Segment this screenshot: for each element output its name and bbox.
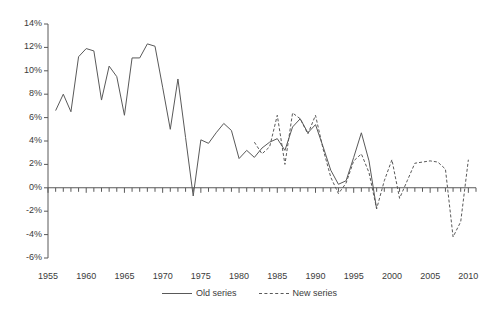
x-axis-tick-label: 2010 <box>448 272 488 281</box>
x-axis-tick-label: 1970 <box>143 272 183 281</box>
legend-swatch-dashed-line-icon <box>259 293 289 294</box>
series-line-old-series <box>56 44 377 209</box>
x-axis-tick-label: 1990 <box>296 272 336 281</box>
y-axis-tick-label: 10% <box>6 66 42 75</box>
y-axis-tick-label: 8% <box>6 89 42 98</box>
legend-item-old-series[interactable]: Old series <box>162 289 237 298</box>
y-axis-tick-label: 0% <box>6 183 42 192</box>
chart-legend: Old series New series <box>0 289 499 298</box>
legend-item-new-series[interactable]: New series <box>259 289 338 298</box>
legend-swatch-solid-line-icon <box>162 293 192 294</box>
x-axis-tick-label: 1985 <box>257 272 297 281</box>
y-axis-tick-label: -2% <box>6 206 42 215</box>
legend-label-old-series: Old series <box>196 289 237 298</box>
legend-label-new-series: New series <box>293 289 338 298</box>
plot-area <box>0 0 499 314</box>
y-axis-tick-label: 12% <box>6 42 42 51</box>
x-axis-tick-label: 1980 <box>219 272 259 281</box>
y-axis-tick-label: 6% <box>6 113 42 122</box>
x-axis-tick-label: 2005 <box>410 272 450 281</box>
x-axis-tick-label: 1955 <box>28 272 68 281</box>
series-line-new-series <box>254 113 468 237</box>
x-axis-tick-label: 1965 <box>104 272 144 281</box>
y-axis-tick-label: 2% <box>6 159 42 168</box>
x-axis-tick-label: 1995 <box>334 272 374 281</box>
x-axis-tick-label: 2000 <box>372 272 412 281</box>
line-chart: Old series New series 14%12%10%8%6%4%2%0… <box>0 0 499 314</box>
y-axis-tick-label: 4% <box>6 136 42 145</box>
y-axis-tick-label: -6% <box>6 253 42 262</box>
x-axis-tick-label: 1975 <box>181 272 221 281</box>
x-axis-tick-label: 1960 <box>66 272 106 281</box>
y-axis-tick-label: 14% <box>6 19 42 28</box>
y-axis-tick-label: -4% <box>6 230 42 239</box>
